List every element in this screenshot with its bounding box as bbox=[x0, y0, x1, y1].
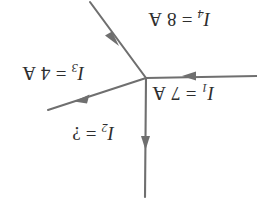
label-i4-equals: = bbox=[182, 9, 193, 30]
arrowhead-i3 bbox=[74, 95, 90, 104]
label-i3-symbol: I3 bbox=[71, 63, 84, 84]
label-i3-equals: = bbox=[56, 63, 67, 84]
label-i4-symbol: I4 bbox=[197, 9, 210, 30]
label-i4: I4 = 8 A bbox=[148, 8, 210, 29]
label-i3-value: 4 bbox=[41, 63, 51, 84]
label-i4-value: 8 bbox=[167, 9, 177, 30]
label-i2: I2 = ? bbox=[72, 122, 114, 143]
branch-line-i4 bbox=[90, 2, 146, 78]
label-i4-subscript: 4 bbox=[197, 7, 203, 21]
label-i2-subscript: 2 bbox=[101, 121, 107, 135]
arrowhead-i1 bbox=[182, 72, 196, 81]
label-i2-symbol: I2 bbox=[101, 123, 114, 144]
label-i1-value: 7 bbox=[171, 83, 181, 104]
label-i4-unit: A bbox=[148, 9, 162, 30]
label-i3-subscript: 3 bbox=[71, 61, 77, 75]
label-i3: I3 = 4 A bbox=[22, 62, 84, 83]
label-i1-unit: A bbox=[152, 83, 166, 104]
current-junction-figure: I4 = 8 A I3 = 4 A I1 = 7 A I2 = ? bbox=[0, 0, 257, 205]
junction-lines-svg bbox=[0, 0, 257, 205]
label-i1-symbol: I1 bbox=[201, 83, 214, 104]
label-i3-unit: A bbox=[22, 63, 36, 84]
label-i1-equals: = bbox=[186, 83, 197, 104]
label-i1: I1 = 7 A bbox=[152, 82, 214, 103]
branch-line-i1 bbox=[146, 76, 257, 78]
label-i2-equals: = bbox=[86, 123, 97, 144]
label-i1-subscript: 1 bbox=[201, 81, 207, 95]
arrowhead-i2 bbox=[141, 136, 150, 150]
label-i2-value: ? bbox=[72, 123, 81, 144]
